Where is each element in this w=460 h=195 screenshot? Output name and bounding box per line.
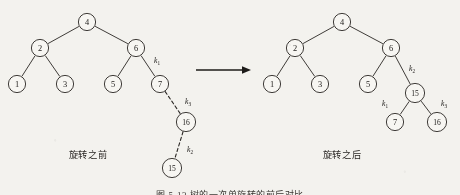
- node-value: 16: [433, 118, 441, 127]
- tree-rotation-diagram: 42613571615 42613515716 k1k3k2k2k1k3 旋转之…: [0, 0, 460, 195]
- tree-edge: [303, 26, 334, 43]
- node-value: 7: [393, 118, 397, 127]
- tree-node-4: 4: [333, 13, 350, 30]
- caption-before: 旋转之前: [69, 149, 107, 160]
- edge-label-k1: k1: [382, 99, 388, 109]
- tree-node-15: 15: [162, 158, 181, 177]
- edges-group-after: [277, 26, 431, 114]
- tree-edge: [421, 101, 431, 114]
- tree-edge: [95, 26, 128, 43]
- tree-edge: [175, 132, 183, 158]
- tree-edge: [395, 56, 410, 84]
- tree-edge: [141, 56, 155, 77]
- tree-node-16: 16: [427, 112, 446, 131]
- tree-node-5: 5: [104, 75, 121, 92]
- tree-node-4: 4: [78, 13, 95, 30]
- tree-node-7: 7: [386, 113, 403, 130]
- tree-node-2: 2: [31, 39, 48, 56]
- node-value: 6: [389, 44, 393, 53]
- tree-edge: [350, 26, 383, 43]
- node-value: 3: [318, 80, 322, 89]
- tree-edge: [300, 56, 315, 77]
- transform-arrow: [196, 66, 251, 74]
- node-value: 15: [168, 164, 176, 173]
- edge-label-k2: k2: [187, 145, 193, 155]
- node-value: 5: [366, 80, 370, 89]
- tree-node-6: 6: [382, 39, 399, 56]
- tree-node-6: 6: [127, 39, 144, 56]
- node-value: 15: [411, 89, 419, 98]
- tree-edge: [373, 56, 386, 77]
- tree-edge: [48, 26, 79, 43]
- tree-node-16: 16: [176, 112, 195, 131]
- tree-node-15: 15: [405, 83, 424, 102]
- tree-node-5: 5: [359, 75, 376, 92]
- node-value: 7: [158, 80, 162, 89]
- tree-edge: [22, 56, 35, 77]
- tree-node-7: 7: [151, 75, 168, 92]
- node-value: 1: [270, 80, 274, 89]
- edge-label-k3: k3: [185, 97, 191, 107]
- node-value: 6: [134, 44, 138, 53]
- edge-label-k3: k3: [441, 99, 447, 109]
- edge-label-k2: k2: [409, 64, 415, 74]
- tree-edge: [165, 92, 180, 114]
- tree-edge: [277, 56, 290, 77]
- node-value: 5: [111, 80, 115, 89]
- figure-root: 42613571615 42613515716 k1k3k2k2k1k3 旋转之…: [0, 0, 460, 195]
- edge-label-k1: k1: [154, 56, 160, 66]
- node-value: 1: [15, 80, 19, 89]
- node-value: 16: [182, 118, 190, 127]
- tree-node-3: 3: [311, 75, 328, 92]
- node-value: 3: [63, 80, 67, 89]
- node-value: 2: [38, 44, 42, 53]
- tree-edge: [45, 56, 60, 77]
- tree-node-1: 1: [263, 75, 280, 92]
- tree-edge: [400, 101, 409, 114]
- nodes-group-after: 42613515716: [263, 13, 446, 131]
- node-value: 2: [293, 44, 297, 53]
- tree-node-3: 3: [56, 75, 73, 92]
- tree-node-1: 1: [8, 75, 25, 92]
- figure-number-caption: 图 5-13 树的一次单旋转的前后对比: [0, 188, 460, 195]
- tree-node-2: 2: [286, 39, 303, 56]
- caption-after: 旋转之后: [323, 149, 361, 160]
- tree-edge: [118, 56, 131, 77]
